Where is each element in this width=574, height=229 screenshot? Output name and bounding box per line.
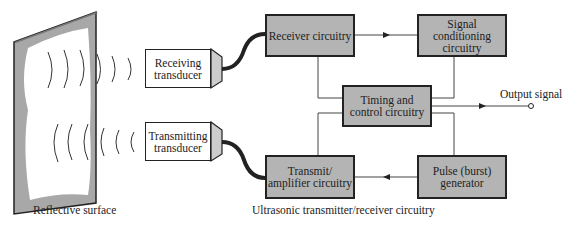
output-signal-label: Output signal — [500, 88, 562, 100]
receiver-circuitry-block: Receiver circuitry — [265, 14, 355, 57]
system-caption: Ultrasonic transmitter/receiver circuitr… — [252, 204, 435, 216]
receiving-transducer: Receiving transducer — [145, 49, 211, 88]
timing-control-block: Timing and control circuitry — [342, 85, 432, 127]
transmitting-transducer: Transmitting transducer — [145, 122, 211, 161]
reflective-surface-label: Reflective surface — [33, 204, 116, 216]
pulse-generator-block: Pulse (burst) generator — [417, 155, 507, 199]
signal-conditioning-block: Signal conditioning circuitry — [417, 14, 507, 57]
transmit-amplifier-block: Transmit/ amplifier circuitry — [265, 155, 355, 199]
